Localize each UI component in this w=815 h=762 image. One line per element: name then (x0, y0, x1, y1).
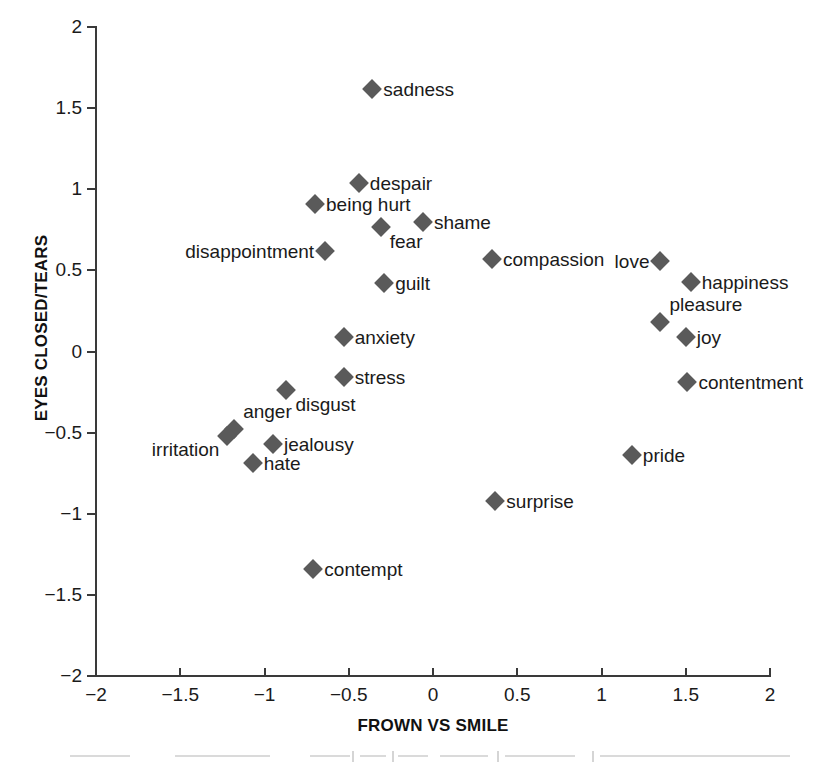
data-point-label: stress (355, 368, 406, 387)
x-tick-label: 2 (765, 684, 776, 706)
x-tick-label: −0.5 (330, 684, 368, 706)
y-tick-label: 2 (20, 16, 82, 38)
data-point-label: hate (264, 454, 301, 473)
data-point-label: irritation (152, 440, 220, 459)
data-point-label: guilt (395, 274, 430, 293)
x-tick-label: −2 (85, 684, 107, 706)
data-point-label: compassion (503, 250, 604, 269)
x-tick-label: 1.5 (673, 684, 699, 706)
x-tick-label: 0 (428, 684, 439, 706)
data-point-label: contempt (324, 560, 402, 579)
y-tick-mark (87, 351, 96, 353)
data-point-label: anxiety (355, 328, 415, 347)
y-tick-label: −2 (20, 665, 82, 687)
x-tick-label: 1 (596, 684, 607, 706)
x-tick-label: −1.5 (161, 684, 199, 706)
x-axis-title: FROWN VS SMILE (96, 716, 770, 736)
y-tick-mark (87, 594, 96, 596)
data-point-label: despair (370, 174, 432, 193)
x-tick-label: −1 (254, 684, 276, 706)
y-tick-mark (87, 432, 96, 434)
data-point-label: disappointment (185, 242, 314, 261)
scatter-plot-figure: 21.510.50−0.5−1−1.5−2 −2−1.5−1−0.500.511… (0, 0, 815, 762)
data-point-label: contentment (698, 373, 803, 392)
data-point-label: joy (697, 328, 721, 347)
data-point-label: being hurt (326, 195, 411, 214)
data-point-label: surprise (506, 492, 574, 511)
data-point-label: shame (434, 213, 491, 232)
y-tick-mark (87, 26, 96, 28)
y-tick-label: −1.5 (20, 584, 82, 606)
y-tick-mark (87, 513, 96, 515)
data-point-label: disgust (295, 395, 355, 414)
scan-artifact (0, 751, 815, 762)
y-axis-title: EYES CLOSED/TEARS (32, 138, 52, 518)
plot-area (96, 27, 770, 676)
data-point-label: anger (243, 402, 292, 421)
y-tick-mark (87, 107, 96, 109)
data-point-label: jealousy (284, 435, 354, 454)
data-point-label: pleasure (669, 295, 742, 314)
x-tick-label: 0.5 (504, 684, 530, 706)
data-point-label: happiness (702, 273, 789, 292)
data-point-label: pride (643, 446, 685, 465)
data-point-label: love (615, 252, 650, 271)
y-tick-mark (87, 188, 96, 190)
y-tick-mark (87, 269, 96, 271)
y-tick-label: 1.5 (20, 97, 82, 119)
data-point-label: fear (390, 232, 423, 251)
data-point-label: sadness (383, 80, 454, 99)
